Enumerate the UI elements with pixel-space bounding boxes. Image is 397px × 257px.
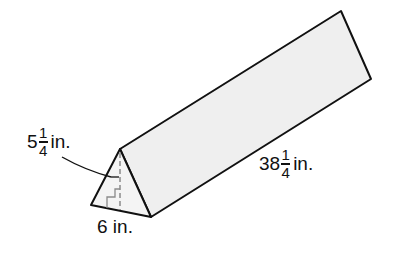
prism-top-face: [120, 11, 371, 217]
length-fraction: 1 4: [281, 148, 290, 180]
height-leader-line: [62, 157, 111, 177]
height-fraction: 1 4: [39, 126, 48, 158]
height-label: 5 1 4 in.: [27, 126, 71, 158]
length-label: 38 1 4 in.: [259, 148, 313, 180]
length-whole: 38: [259, 153, 280, 175]
base-label: 6 in.: [97, 216, 133, 238]
length-unit: in.: [293, 153, 313, 175]
height-whole: 5: [27, 131, 38, 153]
height-unit: in.: [51, 131, 71, 153]
